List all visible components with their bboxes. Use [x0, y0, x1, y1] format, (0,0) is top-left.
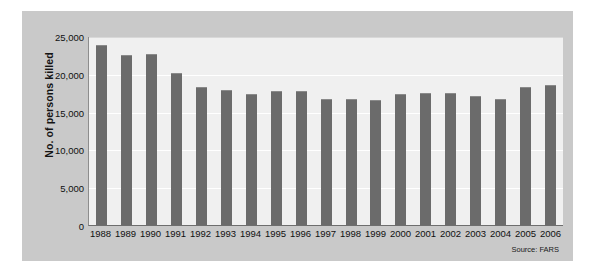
x-tick-label: 1994	[238, 228, 263, 244]
x-tick-label: 2001	[413, 228, 438, 244]
bar-slot	[139, 37, 164, 225]
bar-slot	[513, 37, 538, 225]
bar	[470, 96, 481, 225]
x-tick-label: 1989	[113, 228, 138, 244]
bar	[321, 99, 332, 225]
bar-slot	[189, 37, 214, 225]
bar-slot	[164, 37, 189, 225]
y-tick-label: 25,000	[34, 32, 84, 43]
x-axis-tick-labels: 1988198919901991199219931994199519961997…	[88, 228, 563, 244]
bar-slot	[538, 37, 563, 225]
x-tick-label: 1992	[188, 228, 213, 244]
bar-slot	[264, 37, 289, 225]
chart-figure: No. of persons killed 05,00010,00015,000…	[0, 0, 590, 279]
y-tick-label: 20,000	[34, 69, 84, 80]
bar	[271, 91, 282, 225]
y-tick-label: 0	[34, 221, 84, 232]
x-tick-label: 2004	[488, 228, 513, 244]
bar	[445, 93, 456, 225]
bar	[96, 45, 107, 225]
bar	[196, 87, 207, 225]
bar	[246, 94, 257, 225]
bar	[146, 54, 157, 225]
bar	[171, 73, 182, 225]
x-tick-label: 1998	[338, 228, 363, 244]
x-tick-label: 2002	[438, 228, 463, 244]
bar-slot	[413, 37, 438, 225]
bar	[346, 99, 357, 225]
bar-slot	[463, 37, 488, 225]
x-tick-label: 2006	[538, 228, 563, 244]
x-tick-label: 2005	[513, 228, 538, 244]
bar	[121, 55, 132, 225]
bar	[296, 91, 307, 225]
y-tick-label: 5,000	[34, 183, 84, 194]
chart-panel: No. of persons killed 05,00010,00015,000…	[22, 11, 573, 261]
bar	[495, 99, 506, 225]
x-tick-label: 1997	[313, 228, 338, 244]
bar	[395, 94, 406, 225]
bar-slot	[314, 37, 339, 225]
bar-slot	[89, 37, 114, 225]
bar-slot	[289, 37, 314, 225]
y-tick-label: 15,000	[34, 107, 84, 118]
bar-slot	[239, 37, 264, 225]
y-tick-label: 10,000	[34, 145, 84, 156]
bar-slot	[488, 37, 513, 225]
bar-slot	[388, 37, 413, 225]
bar	[420, 93, 431, 225]
bar-slot	[339, 37, 364, 225]
bar-slot	[214, 37, 239, 225]
bar-series	[89, 37, 563, 225]
x-tick-label: 1995	[263, 228, 288, 244]
x-tick-label: 1996	[288, 228, 313, 244]
x-tick-label: 2000	[388, 228, 413, 244]
x-tick-label: 1990	[138, 228, 163, 244]
source-note: Source: FARS	[511, 245, 559, 254]
x-tick-label: 1988	[88, 228, 113, 244]
x-tick-label: 2003	[463, 228, 488, 244]
x-tick-label: 1993	[213, 228, 238, 244]
bar	[370, 100, 381, 225]
bar-slot	[363, 37, 388, 225]
bar	[545, 85, 556, 225]
plot-area	[88, 37, 563, 226]
bar-slot	[438, 37, 463, 225]
x-tick-label: 1991	[163, 228, 188, 244]
bar-slot	[114, 37, 139, 225]
y-axis-tick-labels: 05,00010,00015,00020,00025,000	[34, 11, 84, 261]
bar	[221, 90, 232, 225]
bar	[520, 87, 531, 225]
x-tick-label: 1999	[363, 228, 388, 244]
